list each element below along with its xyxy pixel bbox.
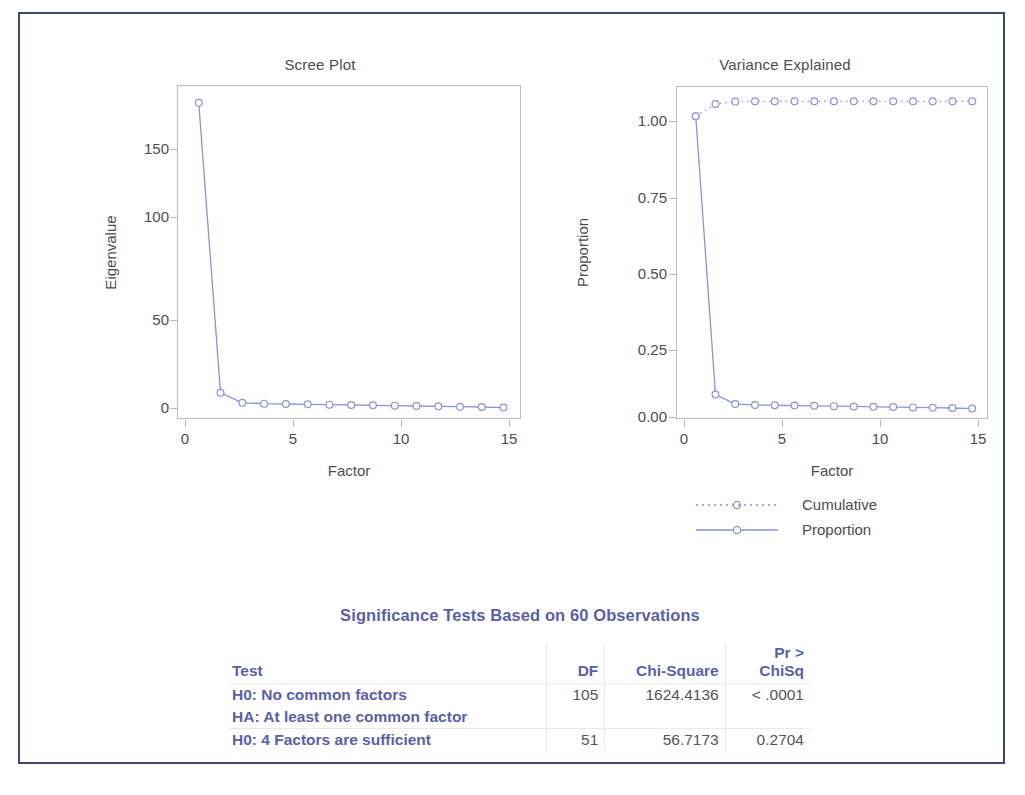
variance-x-axis-label: Factor [732, 462, 932, 479]
legend-label-proportion: Proportion [802, 521, 871, 538]
variance-xtick-10: 10 [860, 430, 900, 447]
variance-xtick-15: 15 [958, 430, 998, 447]
scree-xtick-0: 0 [165, 430, 205, 447]
proportion-line-key [694, 522, 780, 538]
row0-df-blank [546, 706, 605, 729]
header-df: DF [546, 643, 605, 684]
scree-ytick-50: 50 [97, 311, 169, 328]
table-header-row: Test DF Chi-Square Pr > ChiSq [230, 643, 810, 684]
header-pr-line2: ChiSq [732, 662, 804, 680]
row0-df: 105 [546, 684, 605, 707]
row1-chisquare: 56.7173 [605, 729, 725, 752]
variance-ytick-025: 0.25 [581, 341, 667, 358]
table-row: H0: No common factors 105 1624.4136 < .0… [230, 684, 810, 707]
scree-plot-title: Scree Plot [120, 56, 520, 73]
variance-plot-panel: Variance Explained 1.00 0.75 0.50 0.25 0… [545, 44, 1005, 484]
variance-plot-title: Variance Explained [575, 56, 995, 73]
header-pr-chisq: Pr > ChiSq [725, 643, 810, 684]
variance-ytick-050: 0.50 [581, 265, 667, 282]
sig-table-element: Test DF Chi-Square Pr > ChiSq H0: No com… [230, 643, 810, 751]
scree-xtick-mark [185, 420, 186, 427]
row1-df: 51 [546, 729, 605, 752]
row0-test-h0: H0: No common factors [230, 684, 546, 707]
legend-label-cumulative: Cumulative [802, 496, 877, 513]
scree-ytick-mark [170, 408, 177, 409]
scree-xtick-10: 10 [381, 430, 421, 447]
row0-pr: < .0001 [725, 684, 810, 707]
scree-y-axis-label: Eigenvalue [102, 198, 119, 308]
row0-test-ha: HA: At least one common factor [230, 706, 546, 729]
variance-series-svg [676, 86, 988, 419]
row1-pr: 0.2704 [725, 729, 810, 752]
scree-x-axis-label: Factor [249, 462, 449, 479]
variance-xtick-mark [782, 420, 783, 427]
legend-row-proportion: Proportion [694, 517, 877, 542]
variance-ytick-mark [669, 121, 676, 122]
variance-ytick-mark [669, 350, 676, 351]
scree-ytick-150: 150 [97, 140, 169, 157]
scree-xtick-mark [509, 420, 510, 427]
output-frame: Scree Plot 150 100 50 0 Eigenvalue 0 5 1… [18, 12, 1005, 764]
variance-y-axis-label: Proportion [574, 198, 591, 308]
variance-ytick-100: 1.00 [581, 112, 667, 129]
plot-legend: Cumulative Proportion [694, 492, 877, 542]
scree-series-svg [177, 85, 521, 419]
scree-ytick-mark [170, 320, 177, 321]
variance-ytick-000: 0.00 [581, 408, 667, 425]
variance-xtick-mark [880, 420, 881, 427]
scree-ytick-0: 0 [97, 399, 169, 416]
table-row-continuation: HA: At least one common factor [230, 706, 810, 729]
row1-test-h0: H0: 4 Factors are sufficient [230, 729, 546, 752]
variance-xtick-0: 0 [664, 430, 704, 447]
row0-chisquare: 1624.4136 [605, 684, 725, 707]
variance-ytick-mark [669, 198, 676, 199]
screenshot-root: Scree Plot 150 100 50 0 Eigenvalue 0 5 1… [0, 0, 1025, 795]
variance-ytick-mark [669, 274, 676, 275]
row0-pr-blank [725, 706, 810, 729]
scree-ytick-mark [170, 217, 177, 218]
significance-tests-table: Significance Tests Based on 60 Observati… [230, 606, 810, 751]
variance-xtick-5: 5 [762, 430, 802, 447]
scree-xtick-mark [401, 420, 402, 427]
scree-plot-panel: Scree Plot 150 100 50 0 Eigenvalue 0 5 1… [80, 44, 540, 484]
variance-xtick-mark [978, 420, 979, 427]
variance-ytick-mark [669, 417, 676, 418]
scree-xtick-15: 15 [489, 430, 529, 447]
header-test: Test [230, 643, 546, 684]
significance-table-title: Significance Tests Based on 60 Observati… [230, 606, 810, 643]
variance-xtick-mark [684, 420, 685, 427]
legend-row-cumulative: Cumulative [694, 492, 877, 517]
scree-xtick-5: 5 [273, 430, 313, 447]
scree-xtick-mark [293, 420, 294, 427]
row0-chisquare-blank [605, 706, 725, 729]
header-pr-line1: Pr > [732, 644, 804, 662]
header-chisquare: Chi-Square [605, 643, 725, 684]
cumulative-line-key [694, 497, 780, 513]
table-row: H0: 4 Factors are sufficient 51 56.7173 … [230, 729, 810, 752]
variance-ytick-075: 0.75 [581, 189, 667, 206]
scree-ytick-mark [170, 149, 177, 150]
